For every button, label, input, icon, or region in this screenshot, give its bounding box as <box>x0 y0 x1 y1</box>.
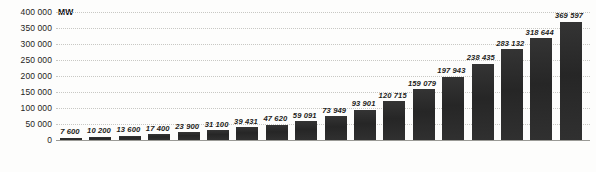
bar[interactable] <box>501 49 523 140</box>
bar-value-label: 47 620 <box>263 114 287 123</box>
bar[interactable] <box>148 134 170 140</box>
bar[interactable] <box>207 130 229 140</box>
y-axis-tick-label: 150 000 <box>21 87 52 97</box>
y-axis-tick-label: 250 000 <box>21 55 52 65</box>
y-axis-tick-label: 50 000 <box>25 119 52 129</box>
bar-chart: 400 000MW350 000300 000250 000200 000150… <box>0 0 596 172</box>
bar[interactable] <box>325 116 347 140</box>
bar[interactable] <box>560 22 582 140</box>
bar-value-label: 39 431 <box>234 117 258 126</box>
bar-value-label: 31 100 <box>205 120 229 129</box>
bar[interactable] <box>119 136 141 140</box>
bar[interactable] <box>60 138 82 141</box>
bar[interactable] <box>89 137 111 140</box>
bar-value-label: 7 600 <box>60 127 80 136</box>
bar-series: 7 600199710 200199813 600199917 40020002… <box>56 0 590 172</box>
bar[interactable] <box>236 127 258 140</box>
bar-value-label: 238 435 <box>467 53 495 62</box>
bar[interactable] <box>354 110 376 140</box>
y-axis-tick-label: 350 000 <box>21 23 52 33</box>
bar-value-label: 283 132 <box>496 39 524 48</box>
bar-value-label: 13 600 <box>116 125 140 134</box>
y-axis-tick-label: 100 000 <box>21 103 52 113</box>
bar[interactable] <box>178 132 200 140</box>
bar-value-label: 197 943 <box>437 66 465 75</box>
bar-value-label: 369 597 <box>555 11 583 20</box>
bar-value-label: 73 949 <box>322 106 346 115</box>
bar[interactable] <box>266 125 288 140</box>
bar-value-label: 159 079 <box>408 79 436 88</box>
bar[interactable] <box>530 38 552 140</box>
y-axis: 400 000MW350 000300 000250 000200 000150… <box>0 0 56 172</box>
bar-value-label: 93 901 <box>352 99 376 108</box>
bar[interactable] <box>383 101 405 140</box>
y-axis-tick-label: 0 <box>47 135 52 145</box>
bar[interactable] <box>295 121 317 140</box>
bar-value-label: 59 091 <box>293 111 317 120</box>
bar[interactable] <box>442 77 464 140</box>
bar[interactable] <box>413 89 435 140</box>
bar-value-label: 17 400 <box>146 124 170 133</box>
bar[interactable] <box>472 64 494 140</box>
y-axis-tick-label: 300 000 <box>21 39 52 49</box>
y-axis-tick-label: 200 000 <box>21 71 52 81</box>
y-axis-tick-label: 400 000 <box>21 7 52 17</box>
bar-value-label: 10 200 <box>87 126 111 135</box>
bar-value-label: 318 644 <box>526 28 554 37</box>
bar-value-label: 23 900 <box>175 122 199 131</box>
plot-area: 7 600199710 200199813 600199917 40020002… <box>56 0 590 172</box>
bar-value-label: 120 715 <box>379 91 407 100</box>
